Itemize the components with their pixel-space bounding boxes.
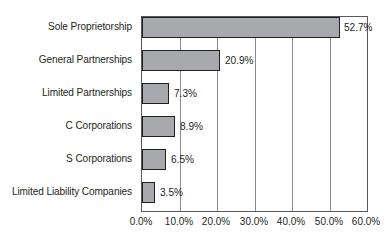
bar-row: 8.9% — [142, 116, 367, 137]
bar-row: 20.9% — [142, 50, 367, 71]
x-axis-tick-labels: 0.0% 10.0% 20.0% 30.0% 40.0% 50.0% 60.0% — [141, 215, 368, 235]
bar-sole-proprietorship — [142, 17, 340, 38]
plot-area: 52.7% 20.9% 7.3% 8.9% 6.5% 3.5% — [141, 16, 368, 212]
bar-value-general-partnerships: 20.9% — [225, 53, 254, 67]
bar-row: 7.3% — [142, 83, 367, 104]
bar-value-limited-liability-companies: 3.5% — [160, 185, 183, 199]
category-label-limited-partnerships: Limited Partnerships — [5, 87, 132, 98]
x-tick-label-60: 60.0% — [344, 215, 388, 228]
bar-c-corporations — [142, 116, 175, 137]
bar-row: 52.7% — [142, 17, 367, 38]
category-label-limited-liability-companies: Limited Liability Companies — [5, 186, 132, 197]
category-label-general-partnerships: General Partnerships — [5, 54, 132, 65]
bar-limited-liability-companies — [142, 182, 155, 203]
bar-general-partnerships — [142, 50, 220, 71]
category-label-c-corporations: C Corporations — [5, 120, 132, 131]
bars-layer: 52.7% 20.9% 7.3% 8.9% 6.5% 3.5% — [142, 17, 367, 211]
bar-chart: Sole Proprietorship General Partnerships… — [0, 0, 388, 240]
category-label-s-corporations: S Corporations — [5, 153, 132, 164]
bar-s-corporations — [142, 149, 166, 170]
bar-limited-partnerships — [142, 83, 169, 104]
bar-value-limited-partnerships: 7.3% — [174, 86, 197, 100]
bar-value-c-corporations: 8.9% — [180, 119, 203, 133]
category-label-sole-proprietorship: Sole Proprietorship — [5, 21, 132, 32]
category-axis: Sole Proprietorship General Partnerships… — [0, 16, 136, 212]
bar-value-s-corporations: 6.5% — [171, 152, 194, 166]
bar-row: 6.5% — [142, 149, 367, 170]
bar-row: 3.5% — [142, 182, 367, 203]
bar-value-sole-proprietorship: 52.7% — [344, 20, 373, 34]
